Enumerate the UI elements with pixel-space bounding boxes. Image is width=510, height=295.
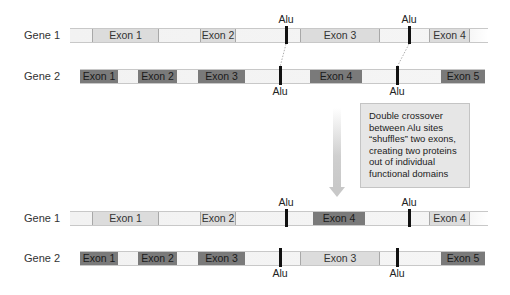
callout-line: creating two proteins [369, 145, 461, 157]
gene2-bar-after: Exon 1 Exon 2 Exon 3 Exon 3 Exon 5 [80, 251, 485, 266]
alu-label-g1-a-after: Alu [271, 196, 301, 208]
callout-line: Double crossover [369, 110, 461, 122]
gene2-exon2-after: Exon 2 [138, 252, 177, 265]
alu-label-g2-a-before: Alu [265, 85, 295, 97]
gene2-exon5-after: Exon 5 [441, 252, 485, 265]
alu-marker-g1-a-after [285, 209, 288, 227]
gene2-exon4-before: Exon 4 [310, 70, 362, 83]
alu-marker-g1-b-after [408, 209, 411, 227]
alu-label-g1-b-after: Alu [394, 196, 424, 208]
crossover-lines [0, 0, 510, 110]
gene2-bar-before: Exon 1 Exon 2 Exon 3 Exon 4 Exon 5 [80, 69, 485, 84]
alu-label-g2-a-after: Alu [265, 267, 295, 279]
gene1-exon1-after: Exon 1 [92, 212, 159, 225]
gene1-exon4-after: Exon 4 [429, 212, 470, 225]
callout-line: out of individual [369, 156, 461, 168]
gene2-exon1-after: Exon 1 [80, 252, 118, 265]
alu-marker-g2-b-before [396, 66, 399, 85]
gene2-exon2-before: Exon 2 [138, 70, 177, 83]
callout-line: functional domains [369, 168, 461, 180]
gene1-bar-after: Exon 1 Exon 2 Exon 4 Exon 4 [70, 211, 488, 226]
gene1-label-after: Gene 1 [24, 211, 60, 225]
callout-box: Double crossover between Alu sites “shuf… [360, 103, 470, 188]
alu-label-g2-b-after: Alu [382, 267, 412, 279]
down-arrow-icon [329, 187, 345, 197]
gene2-exon3-before: Exon 3 [198, 70, 245, 83]
callout-line: “shuffles” two exons, [369, 133, 461, 145]
gene2-exon3-shuffled-after: Exon 3 [300, 252, 380, 265]
alu-marker-g2-a-after [279, 248, 282, 267]
alu-label-g2-b-before: Alu [382, 85, 412, 97]
alu-marker-g2-b-after [396, 248, 399, 267]
alu-marker-g2-a-before [279, 66, 282, 85]
down-arrow-shaft [333, 108, 341, 188]
gene1-exon4-shuffled-after: Exon 4 [313, 212, 365, 225]
callout-line: between Alu sites [369, 122, 461, 134]
gene2-exon5-before: Exon 5 [441, 70, 485, 83]
gene2-exon1-before: Exon 1 [80, 70, 118, 83]
gene2-label-after: Gene 2 [24, 251, 60, 265]
gene2-label-before: Gene 2 [24, 69, 60, 83]
gene1-exon2-after: Exon 2 [200, 212, 236, 225]
gene2-exon3-after: Exon 3 [198, 252, 245, 265]
